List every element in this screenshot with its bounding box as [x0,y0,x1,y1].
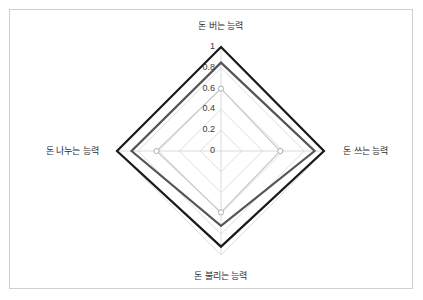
axis-spokes [117,47,325,255]
data-point-marker [278,148,283,153]
category-label-3: 돈 나누는 능력 [0,146,99,156]
category-label-1: 돈 쓰는 능력 [343,146,388,156]
data-point-marker [218,210,223,215]
data-point-markers [154,86,283,215]
data-point-marker [218,86,223,91]
data-point-marker [154,148,159,153]
radial-tick-label: 0.8 [177,63,215,72]
radial-tick-label: 0.2 [177,125,215,134]
data-series-group [117,47,324,247]
radial-tick-label: 0 [177,146,215,155]
category-label-2: 돈 불리는 능력 [161,271,281,281]
radial-tick-label: 0.4 [177,104,215,113]
radial-tick-label: 1 [177,42,215,51]
series-polygon [117,47,324,247]
radial-tick-label: 0.6 [177,84,215,93]
category-label-0: 돈 버는 능력 [161,21,281,31]
